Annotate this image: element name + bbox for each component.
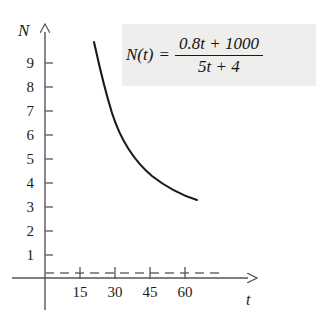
y-axis-ticks [45,63,53,255]
y-tick-label: 2 [18,224,34,239]
formula-denominator: 5t + 4 [194,56,244,78]
y-tick-label: 6 [18,128,34,143]
x-tick-label: 60 [172,285,198,300]
y-tick-label: 3 [18,200,34,215]
x-tick-label: 30 [102,285,128,300]
y-tick-label: 1 [18,248,34,263]
formula-expression: N(t) = 0.8t + 1000 5t + 4 [126,28,263,82]
y-tick-label: 4 [18,176,34,191]
formula-numerator: 0.8t + 1000 [175,33,263,55]
formula-equals-sign: = [158,45,170,65]
y-axis-label: N [18,22,29,39]
y-tick-label: 9 [18,56,34,71]
y-tick-label: 5 [18,152,34,167]
x-tick-label: 15 [67,285,93,300]
y-tick-label: 7 [18,104,34,119]
formula-left-hand-side: N(t) [126,45,153,65]
function-graph-figure: N t 9 8 7 6 5 4 3 2 1 15 30 45 60 N(t) =… [0,0,316,322]
formula-fraction: 0.8t + 1000 5t + 4 [175,33,263,77]
x-tick-label: 45 [137,285,163,300]
y-tick-label: 8 [18,80,34,95]
x-axis-label: t [246,292,250,308]
